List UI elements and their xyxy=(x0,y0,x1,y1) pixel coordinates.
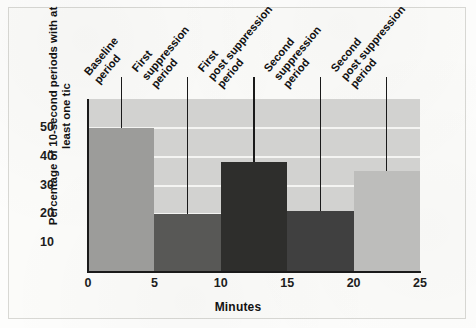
bar xyxy=(354,171,420,272)
bar xyxy=(154,214,220,272)
y-tick-label: 20 xyxy=(14,206,54,220)
bar xyxy=(287,211,353,272)
y-tick-label: 10 xyxy=(14,235,54,249)
x-axis-line xyxy=(88,271,421,273)
y-axis-title-line1: Percentage of 10-second periods xyxy=(47,46,59,225)
x-tick-label: 15 xyxy=(267,276,307,290)
x-tick-label: 5 xyxy=(134,276,174,290)
y-tick-label: 40 xyxy=(14,149,54,163)
x-axis-title: Minutes xyxy=(0,300,476,314)
annotation-leader-line xyxy=(320,77,321,211)
x-tick-label: 25 xyxy=(400,276,440,290)
bar xyxy=(88,128,154,272)
y-tick-label: 50 xyxy=(14,120,54,134)
annotation-leader-line xyxy=(187,77,188,214)
annotation-leader-line xyxy=(386,77,387,171)
x-tick-label: 20 xyxy=(334,276,374,290)
figure: Percentage of 10-second periods with at … xyxy=(0,0,476,328)
annotation-leader-line xyxy=(121,77,122,128)
bar xyxy=(221,162,287,272)
y-axis-title: Percentage of 10-second periods with at … xyxy=(40,0,80,236)
annotation-leader-line xyxy=(253,77,254,162)
x-tick-label: 10 xyxy=(201,276,241,290)
y-tick-label: 30 xyxy=(14,178,54,192)
x-tick-label: 0 xyxy=(68,276,108,290)
y-axis-line xyxy=(87,99,89,273)
